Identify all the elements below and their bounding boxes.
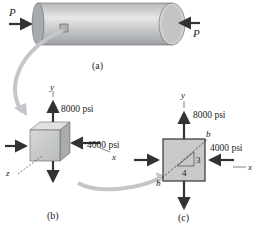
cube-element-b: [30, 122, 70, 161]
stress-y-label-b: 8000 psi: [61, 104, 94, 114]
axis-x-label-c: x: [247, 162, 252, 172]
stress-y-label-c: 8000 psi: [193, 110, 226, 120]
plane-label-top: b: [206, 129, 211, 139]
axis-z-label-b: z: [5, 168, 10, 178]
axis-y-label-c: y: [180, 90, 185, 100]
slope-run-label: 4: [182, 168, 187, 178]
plane-label-bottom: b: [156, 178, 161, 188]
axis-x-label-b: x: [111, 152, 116, 162]
slope-rise-label: 3: [196, 155, 201, 165]
stress-x-label-b: 4000 psi: [87, 140, 120, 150]
cylinder-part-a: [32, 3, 185, 45]
caption-a: (a): [92, 60, 103, 72]
axis-y-label-b: y: [49, 82, 54, 92]
load-label-left: P: [8, 6, 16, 18]
callout-arrow-b-to-c: [78, 178, 160, 189]
caption-c: (c): [178, 212, 189, 224]
stress-x-label-c: 4000 psi: [210, 143, 243, 153]
caption-b: (b): [47, 210, 59, 222]
stress-element-diagram: P P (a) y 8000 psi 4000 psi x z (b) y 80…: [0, 0, 256, 229]
load-label-right: P: [192, 27, 200, 39]
